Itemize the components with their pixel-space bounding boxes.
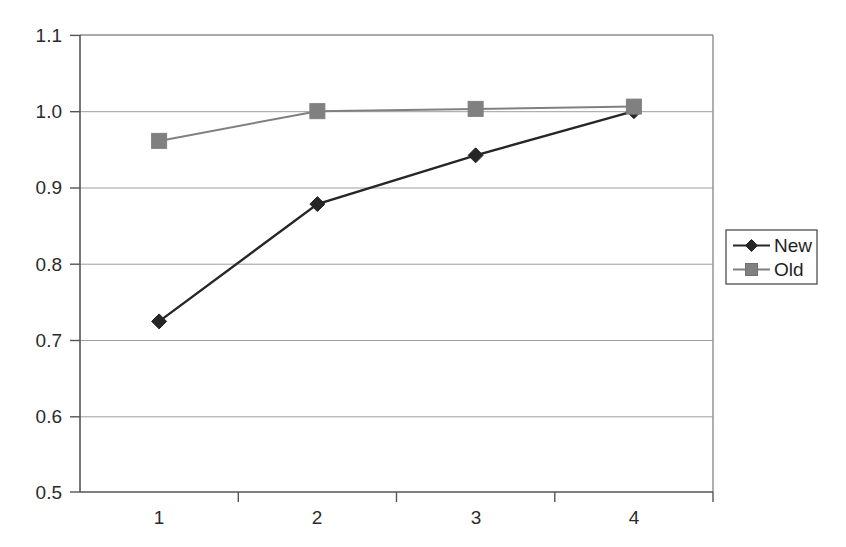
y-tick-label: 0.7 (36, 330, 62, 351)
y-tick-label: 0.6 (36, 406, 62, 427)
y-tick-label: 0.8 (36, 254, 62, 275)
x-tick-label: 4 (629, 507, 640, 528)
legend-label-old: Old (774, 259, 804, 280)
square-icon (746, 264, 758, 276)
y-tick-label: 1.0 (36, 101, 62, 122)
chart-background (0, 0, 846, 547)
x-tick-label: 1 (154, 507, 165, 528)
legend-label-new: New (774, 235, 812, 256)
legend[interactable]: New Old (726, 230, 817, 284)
chart-canvas: 1.1 1.0 0.9 0.8 0.7 0.6 0.5 1 2 3 4 New (0, 0, 846, 547)
data-point-square (310, 104, 325, 119)
data-point-square (468, 101, 483, 116)
y-tick-label: 0.9 (36, 177, 62, 198)
x-tick-label: 3 (471, 507, 482, 528)
line-chart: 1.1 1.0 0.9 0.8 0.7 0.6 0.5 1 2 3 4 New (0, 0, 846, 547)
data-point-square (626, 99, 641, 114)
x-tick-label: 2 (312, 507, 323, 528)
data-point-square (152, 133, 167, 148)
y-tick-label: 0.5 (36, 482, 62, 503)
y-tick-label: 1.1 (36, 25, 62, 46)
